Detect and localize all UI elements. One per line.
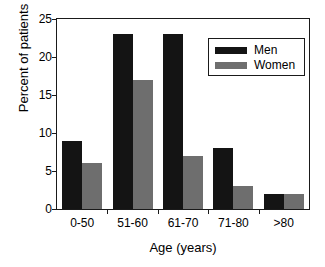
legend-item-men: Men (215, 43, 298, 57)
bar-men-0-50 (62, 141, 82, 209)
x-axis-tick-label: 61-70 (158, 216, 208, 230)
chart-legend: MenWomen (208, 38, 305, 76)
bar-chart-figure: Percent of patients 0510152025 0-5051-60… (0, 0, 325, 267)
y-axis-tick-label: 20 (30, 52, 52, 62)
legend-swatch-men-icon (215, 47, 247, 54)
x-axis-tick-label: >80 (259, 216, 309, 230)
x-axis-title: Age (years) (56, 240, 310, 255)
bar-men->80 (264, 194, 284, 209)
bar-women-0-50 (82, 163, 102, 209)
x-axis-tick-label: 51-60 (107, 216, 157, 230)
legend-swatch-women-icon (215, 62, 247, 69)
legend-label: Men (254, 44, 277, 57)
bar-men-61-70 (163, 34, 183, 209)
bar-men-71-80 (213, 148, 233, 209)
bar-women-61-70 (183, 156, 203, 209)
x-axis-tick-label: 0-50 (57, 216, 107, 230)
y-axis-tick-label: 10 (30, 128, 52, 138)
y-axis-tick-labels: 0510152025 (28, 0, 52, 267)
legend-label: Women (254, 59, 295, 72)
bar-men-51-60 (113, 34, 133, 209)
legend-item-women: Women (215, 58, 298, 72)
y-axis-tick-label: 15 (30, 90, 52, 100)
y-axis-tick-label: 25 (30, 14, 52, 24)
x-axis-tick-label: 71-80 (208, 216, 258, 230)
bar-women->80 (284, 194, 304, 209)
y-axis-tick-label: 0 (30, 204, 52, 214)
y-axis-tick-label: 5 (30, 166, 52, 176)
bar-women-51-60 (133, 80, 153, 209)
bar-women-71-80 (233, 186, 253, 209)
